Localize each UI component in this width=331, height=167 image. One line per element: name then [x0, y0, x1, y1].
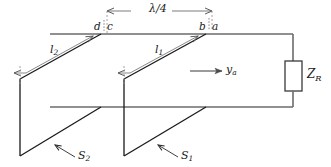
admittance-label-ya: ya	[226, 64, 237, 77]
lower-transmission-line	[50, 91, 293, 107]
stub-2-label: S2	[78, 150, 90, 163]
stub-1-structure	[124, 34, 206, 156]
load-label-subscript: R	[315, 73, 321, 83]
l1-dim-line	[130, 36, 198, 73]
point-label-d: d	[94, 21, 101, 32]
stub-2-label-base: S	[78, 149, 86, 162]
point-label-c: c	[107, 21, 113, 32]
stub-1-label-subscript: 1	[189, 154, 194, 163]
stub-2-label-subscript: 2	[86, 154, 91, 163]
stub-1-upper-diagonal	[124, 34, 206, 79]
load-impedance-box	[285, 61, 302, 91]
stub-2-leader	[55, 145, 75, 157]
stub-1-label: S1	[181, 150, 193, 163]
length-label-l2: l2	[50, 44, 58, 57]
diagram-canvas	[0, 0, 331, 167]
transmission-line-diagram: λ/4 d c b a l2 l1 ya ZR S1 S2	[0, 0, 331, 167]
quarter-wave-label: λ/4	[149, 3, 167, 14]
stub-1-leader	[158, 145, 178, 157]
junction-tick-marks	[104, 18, 209, 31]
point-label-b: b	[199, 21, 206, 32]
length-label-l2-subscript: 2	[54, 48, 59, 57]
s1-leader-line	[158, 145, 178, 157]
point-label-a: a	[212, 21, 218, 32]
stub-2-structure	[20, 34, 101, 156]
l2-dim-line	[26, 36, 93, 73]
load-impedance-symbol	[285, 61, 302, 91]
stub-1-label-base: S	[181, 149, 189, 162]
load-impedance-label: ZR	[307, 68, 322, 82]
length-label-l1: l1	[155, 44, 163, 57]
s2-leader-line	[55, 145, 75, 157]
upper-transmission-line	[50, 34, 293, 61]
admittance-label-subscript: a	[232, 68, 236, 77]
length-label-l1-subscript: 1	[159, 48, 164, 57]
stub-1-lower-diagonal	[124, 107, 206, 156]
stub-2-upper-diagonal	[20, 34, 101, 79]
